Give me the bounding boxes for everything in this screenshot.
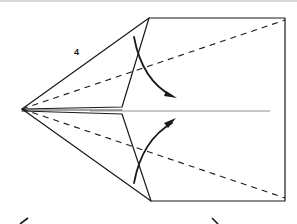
- step-number-label: 4: [74, 47, 79, 57]
- lower-fold-arrow-icon: [134, 123, 172, 183]
- right-arrow-icon: [212, 218, 218, 224]
- paper-outline-top-edge: [22, 18, 285, 201]
- lower-valley-fold-line: [22, 109, 285, 198]
- upper-arrowhead-icon: [164, 91, 177, 98]
- upper-valley-fold-line: [22, 20, 285, 109]
- upper-fold-arrow-icon: [134, 37, 172, 96]
- left-arrow-icon: [20, 218, 28, 224]
- origami-diagram: [0, 0, 297, 224]
